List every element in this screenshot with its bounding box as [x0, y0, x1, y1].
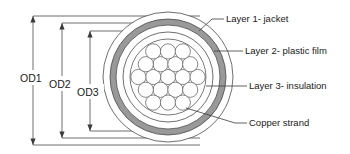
copper-strand — [160, 95, 175, 110]
dimension-label-od3: OD3 — [77, 86, 99, 98]
copper-strand — [175, 44, 190, 59]
arrow-down-od1 — [30, 139, 35, 146]
dimension-od2: OD2 — [49, 23, 76, 138]
dimension-od1: OD1 — [20, 16, 47, 145]
callout-label-copper-strand: Copper strand — [249, 117, 309, 128]
dimension-label-od1: OD1 — [20, 72, 42, 84]
copper-strand — [146, 95, 161, 110]
dimension-label-od2: OD2 — [49, 78, 71, 90]
arrow-up-od3 — [87, 31, 92, 38]
copper-strand — [175, 95, 190, 110]
arrow-down-od3 — [87, 125, 92, 132]
arrow-up-od1 — [30, 16, 35, 23]
callout-layer1: Layer 1- jacket — [199, 13, 289, 31]
diagram-canvas: OD1 OD2 OD3 Layer 1- jacket Layer 2- pla… — [0, 0, 350, 154]
copper-strand — [146, 44, 161, 59]
arrow-up-od2 — [59, 23, 64, 30]
copper-strand — [160, 44, 175, 59]
callout-layer2: Layer 2- plastic film — [214, 45, 327, 56]
arrow-down-od2 — [59, 132, 64, 139]
callout-label-layer3: Layer 3- insulation — [249, 80, 327, 91]
cable-cross-section-diagram: OD1 OD2 OD3 Layer 1- jacket Layer 2- pla… — [0, 0, 350, 154]
callout-label-layer2: Layer 2- plastic film — [245, 45, 327, 56]
dimension-od3: OD3 — [77, 31, 104, 131]
callout-label-layer1: Layer 1- jacket — [226, 13, 289, 24]
